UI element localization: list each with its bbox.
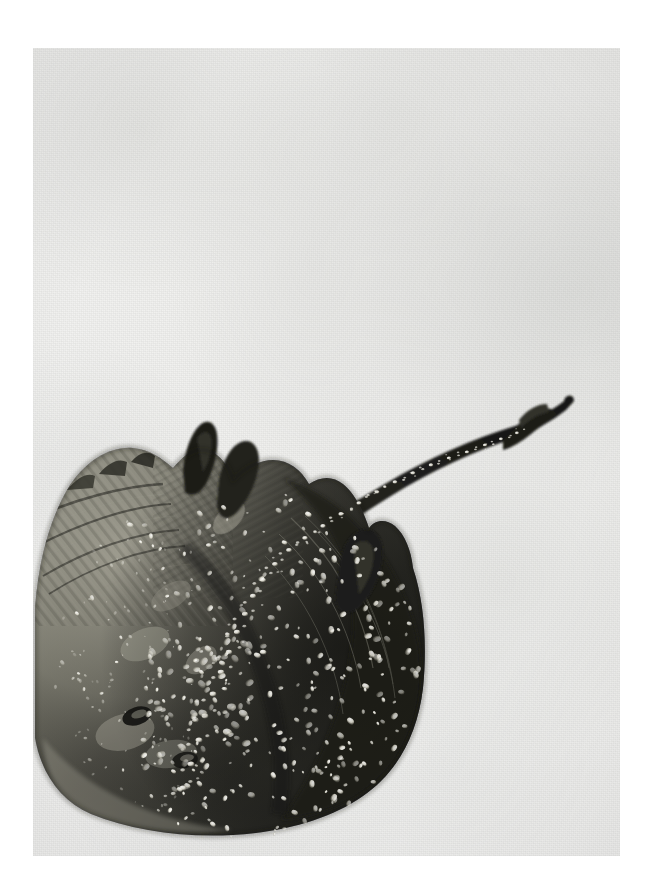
- image-canvas: [0, 0, 652, 896]
- plate-edge: [33, 48, 620, 856]
- photographic-plate: [33, 48, 620, 856]
